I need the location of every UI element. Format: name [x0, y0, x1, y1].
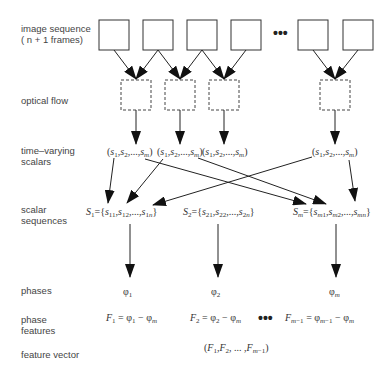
phase-feature-m-1: Fm−1 = φm−1 − φm — [285, 312, 354, 325]
scalar-tuple: (s1,s2,...,sm) — [202, 146, 247, 159]
frame-box — [298, 20, 328, 50]
scalar-to-sequence-arrows — [108, 157, 355, 205]
frames-ellipsis: ••• — [273, 25, 288, 41]
label-scalar: scalar — [21, 204, 46, 215]
label-scalars: scalars — [21, 156, 51, 167]
label-phase: phase — [21, 314, 47, 325]
sequence-to-phase-arrows — [130, 224, 336, 277]
frame-box — [231, 20, 261, 50]
flow-to-scalar-arrows — [136, 110, 335, 144]
frame-box — [187, 20, 217, 50]
phase-feature-2: F2 = φ2 − φm — [190, 312, 241, 325]
frame-box — [143, 20, 173, 50]
label-time-varying: time–varying — [21, 145, 75, 156]
phase-feature-1: F1 = φ1 − φm — [106, 312, 157, 325]
label-feature-vector: feature vector — [21, 349, 79, 360]
label-frames-count: ( n + 1 frames) — [21, 34, 83, 45]
frame-box — [99, 20, 129, 50]
phase-m: φm — [329, 286, 340, 299]
image-frames — [99, 20, 373, 50]
feature-vector: (F1,F2, ... ,Fm−1) — [204, 342, 269, 355]
label-features: features — [21, 325, 55, 336]
scalar-sequence-m: Sm={sm1,sm2,...,smn} — [293, 206, 371, 219]
scalar-sequence-1: S1={s11,s12,...,s1n} — [86, 206, 157, 219]
scalar-tuple: (s1,s2,...,sm) — [312, 146, 357, 159]
phase-2: φ2 — [211, 286, 220, 299]
label-image-sequence: image sequence — [21, 23, 91, 34]
scalar-tuple: (s1,s2,...,sm) — [157, 146, 202, 159]
label-optical-flow: optical flow — [21, 95, 68, 106]
frame-to-flow-arrows — [114, 50, 358, 79]
features-ellipsis: ••• — [258, 310, 273, 326]
scalar-sequence-2: S2={s21,s22,...,s2n} — [183, 206, 254, 219]
frame-box — [343, 20, 373, 50]
optical-flow-boxes — [121, 80, 350, 110]
label-phases: phases — [21, 285, 52, 296]
scalar-tuple: (s1,s2,...,sm) — [107, 146, 152, 159]
phase-1: φ1 — [123, 286, 132, 299]
label-sequences: sequences — [21, 215, 67, 226]
